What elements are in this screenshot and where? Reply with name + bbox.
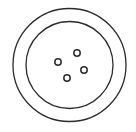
- inner-ring: [26, 22, 113, 109]
- hole-2: [74, 50, 80, 56]
- outer-ring: [13, 9, 126, 122]
- button-icon: [0, 0, 136, 132]
- hole-3: [81, 67, 87, 73]
- hole-4: [64, 75, 70, 81]
- button-holes: [55, 50, 87, 81]
- button-drawing: sewing button: [0, 0, 136, 132]
- hole-1: [55, 59, 61, 65]
